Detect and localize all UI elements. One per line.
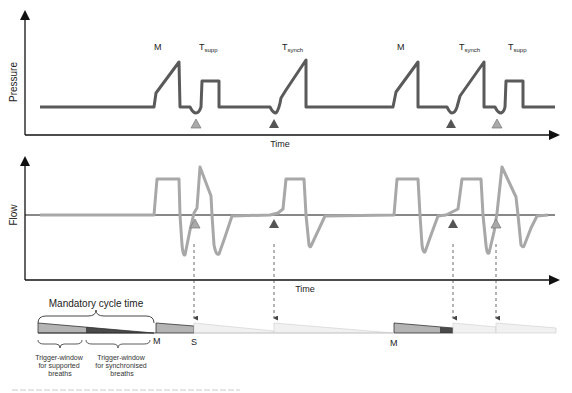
supported-window-bar [38, 323, 86, 333]
timing-bar: Mandatory cycle time M S M Trigger-windo… [35, 298, 556, 377]
flow-y-arrow-icon [20, 156, 30, 166]
flow-y-label: Flow [8, 204, 19, 226]
pressure-y-label: Pressure [8, 62, 19, 102]
flow-trace [40, 167, 548, 255]
supported-window-label: Trigger-window for supported breaths [35, 354, 85, 377]
marker-m2: M [390, 338, 398, 348]
supported-window-brace [38, 340, 82, 348]
flow-x-label: Time [295, 284, 315, 294]
pressure-label-m2: M [397, 42, 405, 52]
ventilation-waveform-diagram: Pressure Time M Tsupp Tsynch M Tsynch Ts… [0, 0, 572, 393]
pressure-label-tsupp1: Tsupp [199, 42, 218, 53]
synchronised-trigger-icon [269, 119, 279, 128]
pressure-label-tsupp2: Tsupp [508, 42, 527, 53]
pressure-label-tsynch2: Tsynch [459, 42, 480, 53]
faded-cycle-bar [274, 323, 393, 333]
pressure-y-arrow-icon [20, 10, 30, 20]
faded-cycle-bar [453, 323, 496, 333]
synchronised-window-brace [86, 340, 150, 348]
flow-x-arrow-icon [549, 275, 560, 285]
marker-m1: M [153, 336, 161, 346]
mandatory-cycle-brace [38, 310, 154, 323]
synchronised-window-label: Trigger-window for synchronised breaths [95, 354, 148, 377]
pressure-trace [40, 60, 555, 113]
supported-window-bar [156, 323, 194, 333]
synchronised-trigger-icon [269, 219, 279, 228]
mandatory-cycle-title: Mandatory cycle time [49, 298, 144, 309]
faded-cycle-bar [194, 323, 274, 333]
supported-trigger-icon [491, 219, 501, 228]
supported-trigger-icon [492, 119, 502, 128]
pressure-x-label: Time [270, 139, 290, 149]
synchronised-trigger-icon [448, 219, 458, 228]
pressure-label-tsynch1: Tsynch [282, 42, 303, 53]
pressure-panel: Pressure Time M Tsupp Tsynch M Tsynch Ts… [8, 10, 560, 149]
flow-panel: Flow Time [8, 156, 560, 318]
synchronised-trigger-icon [446, 119, 456, 128]
pressure-x-arrow-icon [549, 130, 560, 140]
marker-s: S [191, 337, 197, 347]
pressure-label-m1: M [154, 42, 162, 52]
faded-cycle-bar [496, 323, 556, 333]
supported-window-bar [394, 323, 440, 333]
supported-trigger-icon [191, 119, 201, 128]
